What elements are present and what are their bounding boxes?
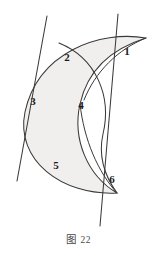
region-label-1: 1	[124, 45, 130, 57]
region-label-6: 6	[109, 173, 115, 185]
figure-container: 1 2 3 4 5 6 图 22	[0, 0, 157, 261]
region-label-4: 4	[78, 99, 84, 111]
region-label-3: 3	[30, 95, 36, 107]
caption-number-text: 22	[81, 235, 92, 245]
region-label-5: 5	[53, 159, 59, 171]
region-label-2: 2	[64, 51, 70, 63]
geometry-diagram: 1 2 3 4 5 6	[0, 0, 157, 261]
caption-label-text: 图	[66, 234, 77, 245]
figure-caption: 图 22	[0, 231, 157, 246]
